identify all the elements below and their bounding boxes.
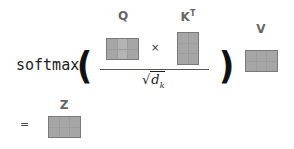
kt-label-base: K — [181, 10, 190, 24]
q-matrix — [106, 38, 139, 60]
sqrt-radicand: dk — [150, 71, 165, 87]
q-label: Q — [112, 9, 134, 23]
matrix-cell — [178, 44, 188, 54]
matrix-cell — [70, 128, 80, 138]
fraction-line — [100, 69, 209, 70]
equals-symbol: = — [20, 118, 29, 131]
matrix-cell — [49, 117, 59, 127]
matrix-cell — [118, 39, 128, 49]
multiply-symbol: × — [151, 42, 159, 53]
kt-label-superscript: T — [190, 9, 195, 18]
v-matrix — [245, 50, 278, 72]
matrix-cell — [60, 128, 70, 138]
matrix-cell — [49, 128, 59, 138]
sqrt-dk: √dk — [142, 72, 165, 90]
matrix-cell — [189, 44, 199, 54]
matrix-cell — [189, 54, 199, 64]
kt-matrix — [177, 32, 199, 65]
z-label: Z — [53, 98, 75, 112]
matrix-cell — [178, 54, 188, 64]
matrix-cell — [246, 51, 256, 61]
matrix-cell — [128, 50, 138, 60]
softmax-label: softmax — [16, 56, 79, 74]
left-parenthesis: ( — [77, 46, 93, 84]
right-parenthesis: ) — [219, 46, 235, 84]
matrix-cell — [107, 39, 117, 49]
matrix-cell — [267, 62, 277, 72]
matrix-cell — [107, 50, 117, 60]
matrix-cell — [70, 117, 80, 127]
matrix-cell — [246, 62, 256, 72]
z-matrix — [48, 116, 81, 138]
dk-subscript: k — [160, 81, 165, 90]
matrix-cell — [257, 51, 267, 61]
matrix-cell — [189, 33, 199, 43]
matrix-cell — [118, 50, 128, 60]
matrix-cell — [60, 117, 70, 127]
kt-label: KT — [176, 9, 200, 24]
matrix-cell — [267, 51, 277, 61]
matrix-cell — [178, 33, 188, 43]
matrix-cell — [257, 62, 267, 72]
matrix-cell — [128, 39, 138, 49]
dk-variable: d — [151, 72, 159, 87]
v-label: V — [250, 22, 272, 36]
